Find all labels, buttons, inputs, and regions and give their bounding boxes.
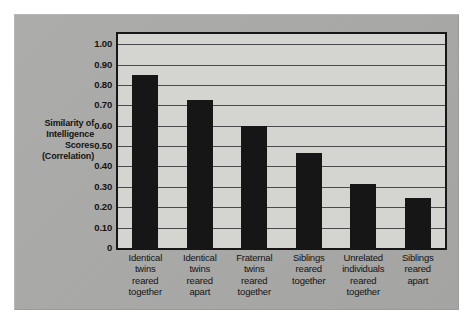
gridline — [118, 166, 445, 167]
figure-root: Similarity ofIntelligenceScores(Correlat… — [0, 0, 473, 325]
y-axis-tick-label: 0.10 — [74, 223, 112, 233]
gridline — [118, 146, 445, 147]
x-axis-category-label-line: Siblings — [385, 252, 452, 263]
bar — [187, 100, 213, 248]
y-axis-tick-label: 0.30 — [74, 182, 112, 192]
bar — [405, 198, 431, 248]
y-axis-tick-label: 0.90 — [74, 60, 112, 70]
x-axis-category-label: Siblingsrearedapart — [385, 252, 452, 286]
y-axis-tick-label: 0.60 — [74, 121, 112, 131]
gridline — [118, 105, 445, 106]
y-axis-tick-label: 0.40 — [74, 161, 112, 171]
y-axis-tick-label: 0.70 — [74, 100, 112, 110]
gridline — [118, 65, 445, 66]
x-axis-category-labels: IdenticaltwinsrearedtogetherIdenticaltwi… — [116, 252, 447, 308]
y-axis-tick-label: 1.00 — [74, 39, 112, 49]
x-axis-category-label-line: together — [221, 286, 288, 297]
gridline — [118, 207, 445, 208]
gridline — [118, 228, 445, 229]
x-axis-category-label-line: reared — [385, 263, 452, 274]
y-axis-tick-label: 0.80 — [74, 80, 112, 90]
bar — [132, 75, 158, 248]
gridline — [118, 187, 445, 188]
bar — [350, 184, 376, 248]
bar — [296, 153, 322, 248]
gridline — [118, 44, 445, 45]
plot-area — [118, 34, 445, 248]
y-axis-tick-label: 0 — [74, 243, 112, 253]
x-axis-category-label-line: together — [330, 286, 397, 297]
x-axis-category-label-line: apart — [385, 275, 452, 286]
y-axis-tick-label: 0.50 — [74, 141, 112, 151]
y-axis-tick-label: 0.20 — [74, 202, 112, 212]
gridline — [118, 85, 445, 86]
gridline — [118, 126, 445, 127]
y-axis-tick-labels: 00.100.200.300.400.500.600.700.800.901.0… — [74, 32, 112, 250]
plot-frame — [116, 32, 447, 250]
bar — [241, 126, 267, 248]
